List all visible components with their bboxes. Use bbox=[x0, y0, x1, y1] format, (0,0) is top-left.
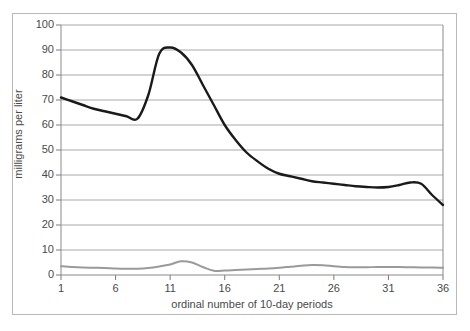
y-tick-label: 30 bbox=[28, 193, 54, 205]
y-tick-label: 60 bbox=[28, 118, 54, 130]
y-tick-label: 10 bbox=[28, 243, 54, 255]
gridlines-group bbox=[61, 25, 443, 250]
y-tick-label: 50 bbox=[28, 143, 54, 155]
y-tick-marks-group bbox=[56, 25, 61, 275]
x-tick-label: 16 bbox=[212, 282, 238, 294]
data-series-group bbox=[61, 47, 443, 271]
x-tick-label: 1 bbox=[48, 282, 74, 294]
y-tick-label: 40 bbox=[28, 168, 54, 180]
y-tick-label: 0 bbox=[28, 268, 54, 280]
y-tick-label: 90 bbox=[28, 43, 54, 55]
y-tick-label: 80 bbox=[28, 68, 54, 80]
series-line-dark-series bbox=[61, 47, 443, 205]
y-tick-label: 100 bbox=[28, 18, 54, 30]
chart-figure: 0102030405060708090100 16111621263136 mi… bbox=[0, 0, 470, 331]
x-tick-label: 31 bbox=[375, 282, 401, 294]
x-tick-label: 36 bbox=[430, 282, 456, 294]
x-axis-title: ordinal number of 10-day periods bbox=[61, 298, 443, 310]
y-tick-label: 70 bbox=[28, 93, 54, 105]
x-tick-label: 21 bbox=[266, 282, 292, 294]
x-tick-marks-group bbox=[61, 275, 443, 280]
series-line-gray-series bbox=[61, 261, 443, 271]
x-tick-label: 6 bbox=[103, 282, 129, 294]
x-tick-label: 11 bbox=[157, 282, 183, 294]
y-axis-title: milligrams per liter bbox=[12, 74, 24, 194]
x-tick-label: 26 bbox=[321, 282, 347, 294]
y-tick-label: 20 bbox=[28, 218, 54, 230]
